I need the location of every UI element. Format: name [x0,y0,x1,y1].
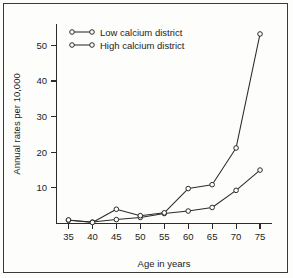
x-tick-label: 40 [87,231,98,242]
legend-marker-end [90,30,95,35]
chart-svg: 1020304050 354045505560657075 Age in yea… [0,0,293,278]
x-tick-label: 60 [183,231,194,242]
data-point [210,182,215,187]
x-tick-label: 65 [207,231,218,242]
legend-marker-end [90,43,95,48]
x-tick-label: 55 [159,231,170,242]
series-low-calcium [66,168,262,225]
legend-marker-start [70,30,75,35]
x-tick-label: 35 [63,231,74,242]
data-point [90,220,95,225]
data-point [138,213,143,218]
chart-legend: Low calcium district High calcium distri… [70,27,185,51]
y-axis-tick-labels: 1020304050 [36,40,47,194]
legend-label-low-calcium: Low calcium district [100,27,183,38]
y-axis-ticks [51,45,57,188]
data-point [162,211,167,216]
x-tick-label: 45 [111,231,122,242]
data-point [234,146,239,151]
legend-item-low-calcium: Low calcium district [70,27,183,38]
y-tick-label: 50 [36,40,47,51]
x-tick-label: 70 [231,231,242,242]
y-tick-label: 10 [36,182,47,193]
series-high-calcium [66,32,262,225]
series-layer [66,32,262,225]
legend-label-high-calcium: High calcium district [100,40,185,51]
data-point [234,188,239,193]
y-tick-label: 40 [36,75,47,86]
data-point [258,168,263,173]
plot-area: 1020304050 354045505560657075 Age in yea… [0,0,293,278]
data-point [66,218,71,223]
x-axis-tick-labels: 354045505560657075 [63,231,265,242]
legend-item-high-calcium: High calcium district [70,40,185,51]
legend-marker-start [70,43,75,48]
figure-container: 1020304050 354045505560657075 Age in yea… [0,0,293,278]
data-point [210,205,215,210]
y-axis-title: Annual rates per 10,000 [11,73,22,174]
x-axis-title: Age in years [138,258,191,269]
data-point [114,207,119,212]
y-tick-label: 20 [36,147,47,158]
data-point [186,209,191,214]
data-point [258,32,263,37]
x-tick-label: 75 [255,231,266,242]
data-point [186,186,191,191]
data-point [114,217,119,222]
y-tick-label: 30 [36,111,47,122]
x-axis-ticks [68,224,260,229]
x-tick-label: 50 [135,231,146,242]
